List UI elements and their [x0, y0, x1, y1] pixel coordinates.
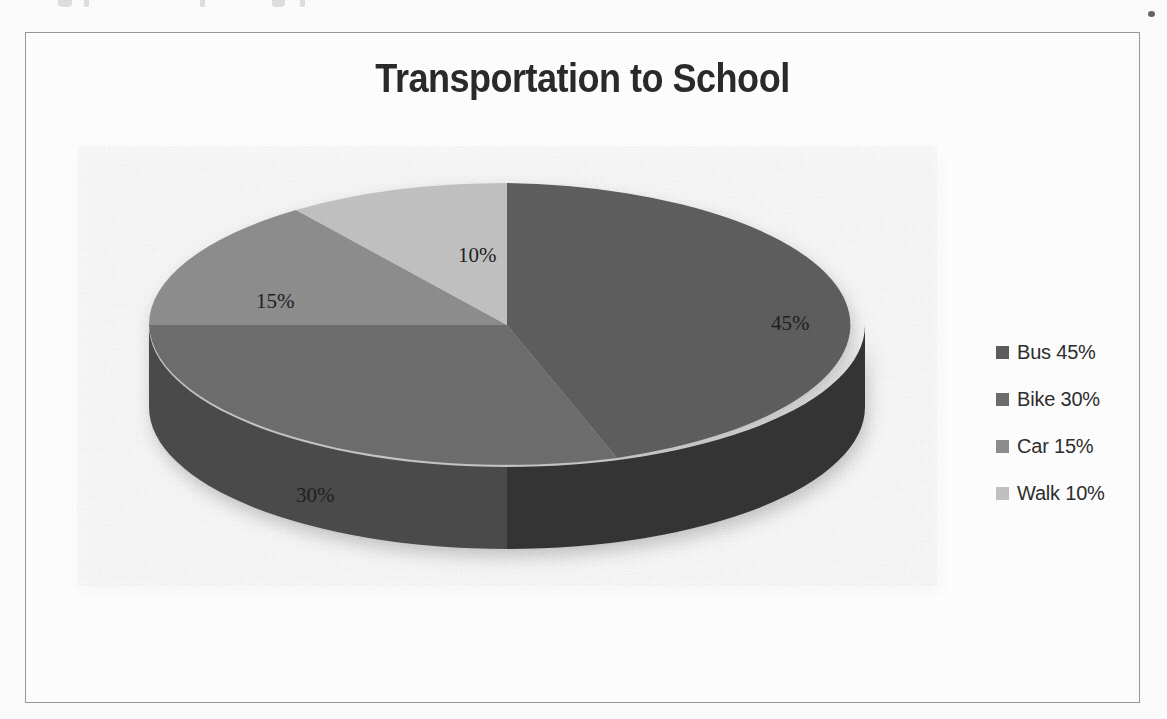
legend-item-bike[interactable]: Bike 30%	[996, 376, 1131, 423]
legend-item-bus[interactable]: Bus 45%	[996, 329, 1131, 376]
pie-body-group	[149, 183, 865, 549]
pie-chart: 45% 30% 15% 10% Bus 45% Bike 30% Car 15%	[26, 33, 1141, 704]
legend-item-car[interactable]: Car 15%	[996, 423, 1131, 470]
legend-swatch-icon	[996, 487, 1009, 500]
slice-label-walk: 10%	[458, 243, 497, 268]
scan-artifact-top-4	[272, 0, 285, 7]
legend-swatch-icon	[996, 346, 1009, 359]
legend-item-walk[interactable]: Walk 10%	[996, 470, 1131, 517]
legend-label-bike: Bike 30%	[1017, 388, 1100, 411]
scan-artifact-top-5	[300, 0, 305, 7]
slice-label-bike: 30%	[296, 483, 335, 508]
chart-frame: Transportation to School	[25, 32, 1140, 703]
scan-artifact-top-3	[200, 0, 205, 7]
chart-legend: Bus 45% Bike 30% Car 15% Walk 10%	[996, 329, 1131, 517]
slice-label-bus: 45%	[771, 311, 810, 336]
legend-label-bus: Bus 45%	[1017, 341, 1096, 364]
scan-artifact-top-2	[84, 0, 89, 7]
legend-swatch-icon	[996, 393, 1009, 406]
slice-label-car: 15%	[256, 289, 295, 314]
scan-artifact-top-1	[58, 0, 72, 7]
legend-label-walk: Walk 10%	[1017, 482, 1105, 505]
scan-speck	[1148, 11, 1155, 17]
scanned-page: Transportation to School	[0, 0, 1167, 719]
pie-chart-svg	[26, 33, 1141, 704]
legend-swatch-icon	[996, 440, 1009, 453]
legend-label-car: Car 15%	[1017, 435, 1093, 458]
